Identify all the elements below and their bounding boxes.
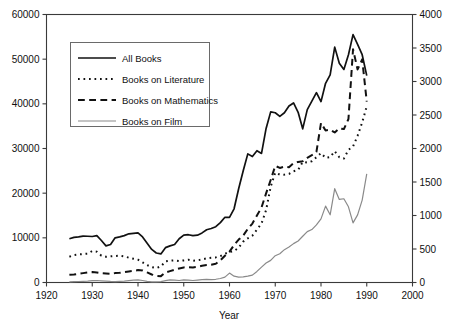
left-axis-tick-label: 0 bbox=[34, 277, 40, 288]
legend-label-3: Books on Film bbox=[122, 116, 182, 127]
x-axis-tick-label: 1970 bbox=[264, 290, 287, 301]
x-axis-tick-label: 1960 bbox=[218, 290, 241, 301]
right-axis-tick-label: 4000 bbox=[420, 9, 443, 20]
chart-container: 0100002000030000400005000060000 05001000… bbox=[0, 0, 453, 329]
legend-label-0: All Books bbox=[122, 53, 162, 64]
chart-background bbox=[0, 0, 453, 329]
x-axis-tick-label: 1920 bbox=[35, 290, 58, 301]
x-axis-tick-label: 1980 bbox=[310, 290, 333, 301]
right-axis-tick-label: 2000 bbox=[420, 143, 443, 154]
line-chart: 0100002000030000400005000060000 05001000… bbox=[0, 0, 453, 329]
right-axis-tick-label: 3500 bbox=[420, 43, 443, 54]
x-axis-tick-label: 1990 bbox=[356, 290, 379, 301]
right-axis-tick-label: 500 bbox=[420, 244, 437, 255]
right-axis-tick-label: 2500 bbox=[420, 110, 443, 121]
chart-legend: All BooksBooks on LiteratureBooks on Mat… bbox=[71, 43, 219, 127]
left-axis-tick-label: 10000 bbox=[12, 232, 40, 243]
x-axis-tick-label: 1930 bbox=[81, 290, 104, 301]
x-axis-tick-label: 1950 bbox=[173, 290, 196, 301]
left-axis-tick-label: 30000 bbox=[12, 143, 40, 154]
right-axis-tick-label: 0 bbox=[420, 277, 426, 288]
right-axis-tick-label: 1500 bbox=[420, 177, 443, 188]
left-axis-tick-label: 20000 bbox=[12, 188, 40, 199]
x-axis-title: Year bbox=[219, 310, 240, 321]
legend-label-1: Books on Literature bbox=[122, 74, 204, 85]
left-axis-tick-label: 40000 bbox=[12, 98, 40, 109]
left-axis-tick-label: 60000 bbox=[12, 9, 40, 20]
left-axis-tick-label: 50000 bbox=[12, 54, 40, 65]
right-axis-tick-label: 1000 bbox=[420, 210, 443, 221]
legend-label-2: Books on Mathematics bbox=[122, 95, 218, 106]
x-axis-tick-label: 2000 bbox=[401, 290, 424, 301]
right-axis-tick-label: 3000 bbox=[420, 76, 443, 87]
x-axis-tick-label: 1940 bbox=[127, 290, 150, 301]
